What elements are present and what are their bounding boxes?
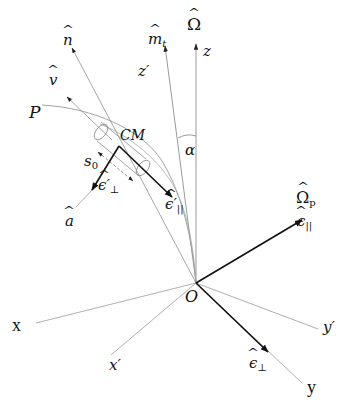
- label-n-hat: n: [63, 33, 73, 48]
- label-y: y: [307, 378, 316, 396]
- label-a-hat: a: [65, 214, 74, 229]
- label-omega: Ω: [187, 16, 201, 33]
- label-O: O: [185, 289, 198, 305]
- label-v-hat: v: [49, 73, 57, 88]
- a-hat-line: [76, 190, 92, 207]
- label-eps-par: ϵ||: [297, 214, 312, 231]
- eps-perp-vector: [196, 283, 268, 352]
- alpha-angle-arc: [178, 135, 196, 138]
- y-prime-axis: [196, 283, 318, 329]
- label-eps-perp-prime: ϵ′⊥: [98, 178, 119, 195]
- label-z-prime: z′: [138, 64, 149, 79]
- label-s0: s0: [84, 154, 98, 171]
- label-x-prime: x′: [109, 358, 121, 373]
- label-P: P: [29, 104, 40, 121]
- label-m-t: mt: [148, 32, 166, 49]
- label-eps-perp: ϵ⊥: [249, 356, 267, 373]
- label-x: x: [12, 316, 21, 334]
- omega-p-vector: [196, 220, 302, 283]
- label-eps-par-prime: ϵ′||: [165, 197, 184, 214]
- label-alpha: α: [185, 143, 195, 158]
- label-CM: CM: [120, 128, 145, 142]
- label-z: z: [203, 44, 211, 59]
- label-y-prime: y′: [323, 320, 335, 335]
